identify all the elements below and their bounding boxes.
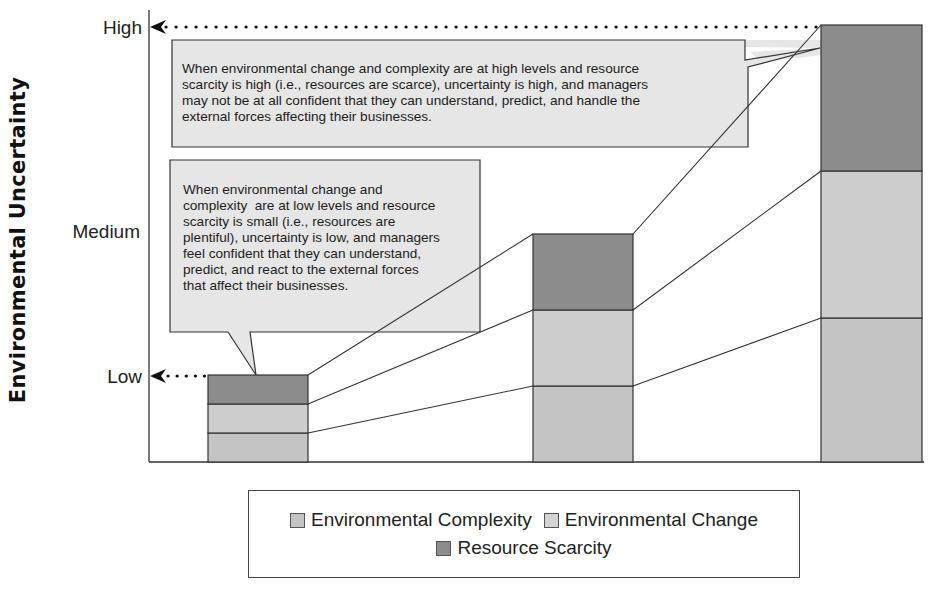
bar-low xyxy=(208,375,308,462)
callout-high-line: external forces affecting their business… xyxy=(182,109,742,125)
legend-label: Resource Scarcity xyxy=(457,537,611,559)
legend: Environmental Complexity Environmental C… xyxy=(248,490,800,578)
dotted-arrow-high xyxy=(150,20,819,34)
callout-low-line: that affect their businesses. xyxy=(183,278,473,294)
callout-low-line: plentiful), uncertainty is low, and mana… xyxy=(183,230,473,246)
callout-low-line: feel confident that they can understand, xyxy=(183,246,473,262)
legend-item-change: Environmental Change xyxy=(544,509,758,531)
legend-label: Environmental Complexity xyxy=(311,509,532,531)
legend-item-complexity: Environmental Complexity xyxy=(290,509,532,531)
swatch-change-icon xyxy=(544,513,559,528)
swatch-complexity-icon xyxy=(290,513,305,528)
callout-high-line: may not be at all confident that they ca… xyxy=(182,93,742,109)
callout-high-line: scarcity is high (i.e., resources are sc… xyxy=(182,77,742,93)
callout-low-line: complexity are at low levels and resourc… xyxy=(183,198,473,214)
callout-high-line: When environmental change and complexity… xyxy=(182,61,742,77)
y-level-low: Low xyxy=(12,366,142,388)
callout-low-line: predict, and react to the external force… xyxy=(183,262,473,278)
legend-label: Environmental Change xyxy=(565,509,758,531)
bar-high xyxy=(821,25,922,462)
swatch-scarcity-icon xyxy=(436,541,451,556)
bar-medium xyxy=(533,234,633,462)
y-level-high: High xyxy=(12,17,142,39)
callout-high-text: When environmental change and complexity… xyxy=(182,61,742,125)
callout-low-line: When environmental change and xyxy=(183,182,473,198)
callout-low-line: scarcity is small (i.e., resources are xyxy=(183,214,473,230)
y-level-medium: Medium xyxy=(10,221,140,243)
legend-item-scarcity: Resource Scarcity xyxy=(436,537,611,559)
callout-low-text: When environmental change and complexity… xyxy=(183,182,473,294)
dotted-arrow-low xyxy=(150,369,212,383)
